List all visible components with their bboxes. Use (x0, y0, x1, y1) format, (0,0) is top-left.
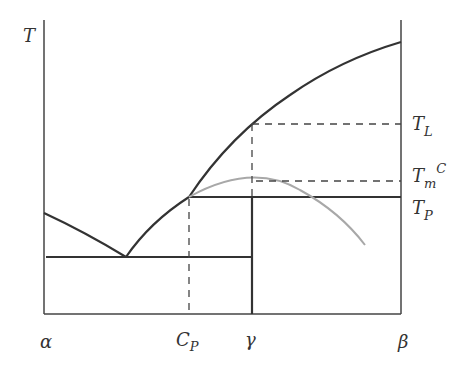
tmc-label: TmC (412, 161, 446, 191)
gamma-liquidus-curve (126, 197, 189, 257)
tp-label: TP (412, 197, 433, 223)
gamma-label: γ (245, 329, 256, 350)
tl-label: TL (412, 113, 433, 139)
beta-label: β (397, 331, 408, 352)
cp-label: CP (176, 329, 199, 354)
phase-diagram: T TL TmC TP α CP γ β (0, 0, 465, 368)
temperature-axis-label: T (23, 25, 37, 46)
beta-liquidus-curve (189, 42, 401, 197)
alpha-label: α (40, 331, 52, 352)
alpha-liquidus-curve (44, 213, 126, 257)
metastable-liquidus-curve (189, 178, 365, 245)
